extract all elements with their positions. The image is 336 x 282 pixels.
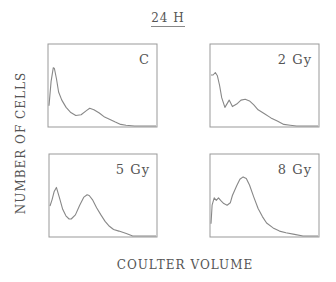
histogram-curve [211,73,318,127]
panel-2gy: 2 Gy [210,44,319,127]
panel-8gy: 8 Gy [210,154,319,237]
panel-label: 5 Gy [116,162,150,177]
panel-5gy: 5 Gy [49,154,157,237]
histogram-curve [49,68,156,126]
histogram-curve [211,177,318,236]
panel-label: 8 Gy [278,162,312,177]
histogram-curve [50,187,156,236]
panel-label: C [139,52,150,67]
panel-c: C [48,44,157,127]
panel-label: 2 Gy [278,52,312,67]
plot-area: C 2 Gy 5 Gy 8 Gy [0,0,336,282]
